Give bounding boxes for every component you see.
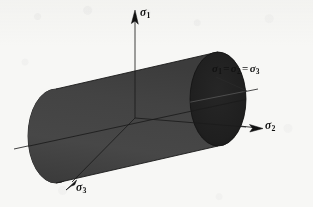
sigma3-arrowhead-icon bbox=[66, 180, 77, 190]
sigma3-subscript: 3 bbox=[83, 186, 87, 195]
sigma3-symbol: σ bbox=[76, 181, 82, 193]
hydrostatic-subscript-3: 3 bbox=[256, 67, 260, 76]
sigma2-symbol: σ bbox=[265, 119, 271, 131]
hydrostatic-subscript-1: 1 bbox=[218, 67, 222, 76]
yield-surface-drawing bbox=[0, 0, 313, 207]
hydrostatic-equals-1: = bbox=[223, 62, 229, 74]
sigma1-subscript: 1 bbox=[147, 11, 151, 20]
hydrostatic-axis-label: σ1=σ2=σ3 bbox=[212, 63, 260, 76]
hydrostatic-symbol-3: σ bbox=[250, 62, 256, 74]
sigma2-arrowhead-icon bbox=[250, 125, 264, 133]
sigma2-subscript: 2 bbox=[272, 124, 276, 133]
axis-label-sigma1: σ1 bbox=[140, 7, 151, 20]
hydrostatic-equals-2: = bbox=[242, 62, 248, 74]
sigma1-symbol: σ bbox=[140, 6, 146, 18]
axis-label-sigma2: σ2 bbox=[265, 120, 276, 133]
hydrostatic-subscript-2: 2 bbox=[237, 67, 241, 76]
hydrostatic-symbol-2: σ bbox=[231, 62, 237, 74]
axis-label-sigma3: σ3 bbox=[76, 182, 87, 195]
figure-canvas: σ1 σ2 σ3 σ1=σ2=σ3 bbox=[0, 0, 313, 207]
